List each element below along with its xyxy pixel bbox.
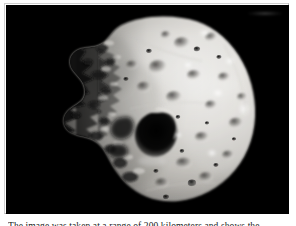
asteroid-body	[6, 5, 289, 214]
page-root: The image was taken at a range of 200 ki…	[0, 0, 296, 226]
plate-artifact	[248, 11, 282, 16]
asteroid-photograph	[6, 5, 289, 214]
figure-caption: The image was taken at a range of 200 ki…	[8, 221, 290, 226]
asteroid-surface-detail	[6, 5, 289, 214]
figure-frame	[4, 3, 289, 214]
asteroid-render	[6, 5, 289, 214]
